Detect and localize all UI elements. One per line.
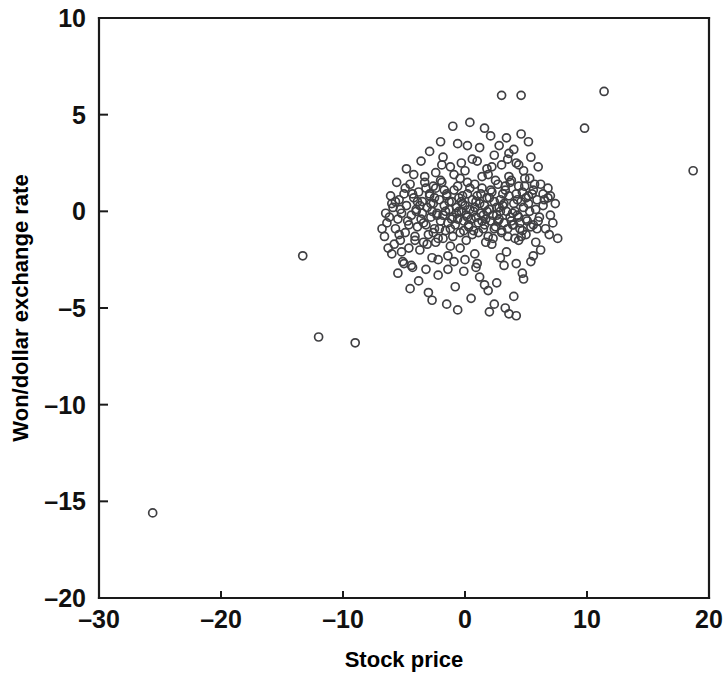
data-point-marker — [444, 265, 452, 273]
y-axis-title: Won/dollar exchange rate — [8, 174, 33, 441]
data-point-marker — [446, 242, 454, 250]
data-point-marker — [502, 134, 510, 142]
data-point-marker — [428, 296, 436, 304]
data-point-marker — [512, 312, 520, 320]
data-point-marker — [496, 254, 504, 262]
data-point-marker — [439, 153, 447, 161]
data-point-marker — [471, 250, 479, 258]
x-tick-label: 20 — [695, 605, 723, 633]
data-point-marker — [495, 142, 503, 150]
data-point-marker — [466, 118, 474, 126]
data-point-marker — [581, 124, 589, 132]
data-point-marker — [500, 261, 508, 269]
tick-marks — [99, 18, 709, 598]
y-axis-tick-labels: 1050–5–10–15–20 — [44, 4, 86, 612]
y-tick-label: 10 — [58, 4, 86, 32]
data-point-marker — [517, 91, 525, 99]
data-point-marker — [467, 294, 475, 302]
data-point-marker — [537, 246, 545, 254]
data-point-marker — [410, 171, 418, 179]
data-point-marker — [689, 167, 697, 175]
data-point-marker — [476, 273, 484, 281]
data-point-marker — [422, 265, 430, 273]
data-point-marker — [468, 155, 476, 163]
chart-canvas: –30–20–1001020 1050–5–10–15–20 Stock pri… — [0, 0, 726, 681]
data-point-marker — [398, 248, 406, 256]
data-point-marker — [487, 132, 495, 140]
data-point-marker — [416, 246, 424, 254]
data-point-marker — [476, 144, 484, 152]
data-point-marker — [554, 234, 562, 242]
x-tick-label: 0 — [458, 605, 472, 633]
data-point-marker — [481, 124, 489, 132]
data-point-marker — [515, 161, 523, 169]
data-point-marker — [473, 157, 481, 165]
data-point-marker — [449, 232, 457, 240]
data-point-marker — [456, 174, 464, 182]
data-point-marker — [510, 292, 518, 300]
data-point-marker — [443, 300, 451, 308]
data-point-marker — [393, 178, 401, 186]
y-tick-label: –15 — [44, 487, 86, 515]
data-point-marker — [456, 244, 464, 252]
data-point-marker — [546, 192, 554, 200]
y-tick-label: –10 — [44, 391, 86, 419]
data-point-marker — [454, 140, 462, 148]
data-point-marker — [526, 174, 534, 182]
data-point-marker — [432, 169, 440, 177]
data-point-marker — [315, 333, 323, 341]
data-point-marker — [454, 306, 462, 314]
data-point-marker — [493, 279, 501, 287]
axes — [99, 18, 709, 598]
x-tick-label: –10 — [322, 605, 364, 633]
x-axis-title: Stock price — [345, 647, 464, 672]
y-tick-label: 0 — [72, 197, 86, 225]
data-point-marker — [351, 339, 359, 347]
data-point-marker — [449, 122, 457, 130]
data-point-marker — [498, 91, 506, 99]
data-point-marker — [439, 234, 447, 242]
data-point-marker — [463, 142, 471, 150]
data-point-marker — [460, 267, 468, 275]
y-tick-label: –20 — [44, 584, 86, 612]
data-point-marker — [490, 151, 498, 159]
data-points — [149, 87, 697, 516]
data-point-marker — [549, 219, 557, 227]
data-point-marker — [485, 308, 493, 316]
data-point-marker — [546, 211, 554, 219]
x-tick-label: 10 — [573, 605, 601, 633]
x-axis-tick-labels: –30–20–1001020 — [78, 605, 723, 633]
data-point-marker — [450, 258, 458, 266]
data-point-marker — [446, 163, 454, 171]
data-point-marker — [434, 271, 442, 279]
scatter-plot-figure: –30–20–1001020 1050–5–10–15–20 Stock pri… — [0, 0, 726, 681]
data-point-marker — [402, 165, 410, 173]
data-point-marker — [378, 225, 386, 233]
data-point-marker — [424, 289, 432, 297]
data-point-marker — [406, 285, 414, 293]
data-point-marker — [461, 167, 469, 175]
data-point-marker — [512, 260, 520, 268]
data-point-marker — [600, 87, 608, 95]
data-point-marker — [461, 256, 469, 264]
data-point-marker — [438, 161, 446, 169]
data-point-marker — [149, 509, 157, 517]
data-point-marker — [534, 163, 542, 171]
data-point-marker — [426, 147, 434, 155]
data-point-marker — [490, 300, 498, 308]
data-point-marker — [415, 277, 423, 285]
data-point-marker — [394, 269, 402, 277]
data-point-marker — [457, 159, 465, 167]
data-point-marker — [527, 153, 535, 161]
data-point-marker — [429, 182, 437, 190]
data-point-marker — [517, 130, 525, 138]
data-point-marker — [380, 232, 388, 240]
y-tick-label: 5 — [72, 101, 86, 129]
data-point-marker — [488, 163, 496, 171]
data-point-marker — [437, 138, 445, 146]
data-point-marker — [532, 238, 540, 246]
data-point-marker — [451, 283, 459, 291]
x-tick-label: –20 — [200, 605, 242, 633]
data-point-marker — [417, 157, 425, 165]
data-point-marker — [551, 200, 559, 208]
